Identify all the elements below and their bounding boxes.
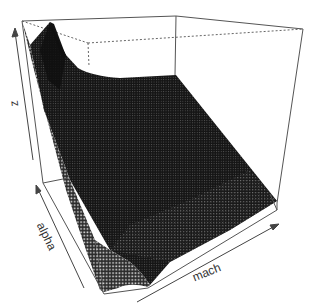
surface-plot: z alpha mach — [0, 0, 312, 308]
mach-axis-label: mach — [190, 260, 222, 284]
z-axis-label: z — [7, 100, 22, 108]
z-arrow-head — [12, 28, 18, 37]
surface — [22, 21, 277, 292]
alpha-arrow-head — [36, 185, 41, 194]
alpha-axis-label: alpha — [34, 220, 60, 253]
mach-arrow-head — [270, 224, 279, 230]
